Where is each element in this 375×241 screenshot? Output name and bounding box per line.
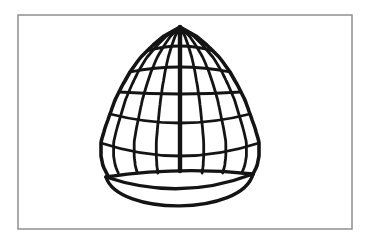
scanned-image-page bbox=[0, 0, 375, 241]
birdcage-illustration bbox=[0, 0, 375, 241]
